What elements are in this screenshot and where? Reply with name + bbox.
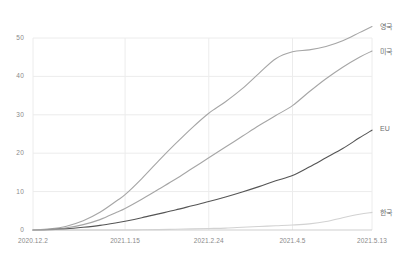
y-axis-tick-label: 10 (2, 188, 24, 195)
x-axis-tick-label: 2020.12.2 (3, 237, 63, 244)
legend-item-2: 미국 (380, 46, 392, 56)
y-axis-tick-label: 30 (2, 111, 24, 118)
x-axis-tick-label: 2021.1.15 (95, 237, 155, 244)
x-axis-tick-label: 2021.5.13 (342, 237, 402, 244)
legend-item-4: 한국 (380, 207, 392, 217)
grid-lines (33, 38, 372, 230)
legend-item-3: EU (380, 125, 390, 132)
chart-plot-area (0, 0, 410, 262)
legend-item-1: 영국 (380, 21, 392, 31)
x-axis-tick-label: 2021.2.24 (179, 237, 239, 244)
x-axis-tick-label: 2021.4.5 (262, 237, 322, 244)
series-line (33, 130, 372, 230)
y-axis-tick-label: 40 (2, 72, 24, 79)
series-lines (33, 26, 372, 230)
y-axis-tick-label: 50 (2, 34, 24, 41)
axis-lines (33, 38, 372, 230)
y-axis-tick-label: 0 (2, 226, 24, 233)
y-axis-tick-label: 20 (2, 149, 24, 156)
series-line (33, 26, 372, 230)
line-chart: 01020304050 2020.12.22021.1.152021.2.242… (0, 0, 410, 262)
